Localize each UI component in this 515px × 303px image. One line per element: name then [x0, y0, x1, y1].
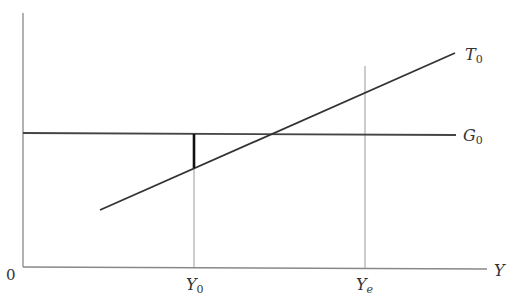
diagram-canvas: 0 Y Y0 Ye T0 G0: [0, 0, 515, 303]
tick-label-ye: Ye: [356, 275, 374, 296]
g0-label: G0: [463, 126, 483, 147]
x-axis: [23, 267, 487, 269]
tick-label-y0: Y0: [186, 275, 204, 296]
x-axis-label: Y: [494, 261, 506, 280]
t0-label: T0: [465, 45, 483, 66]
origin-label: 0: [6, 266, 16, 284]
g0-line: [23, 133, 456, 135]
t0-line: [100, 53, 455, 210]
